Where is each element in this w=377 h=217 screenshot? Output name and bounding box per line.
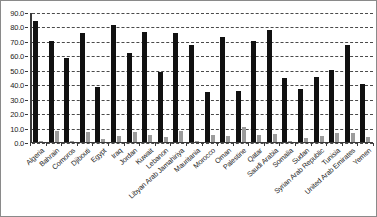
bar-group[interactable]	[266, 13, 282, 142]
y-axis-tick-label: 80.0	[10, 23, 24, 32]
y-axis-tick-mark	[25, 27, 28, 28]
bar-series-1[interactable]	[142, 32, 147, 143]
bar-series-2[interactable]	[288, 141, 292, 142]
bar-series-1[interactable]	[33, 21, 38, 142]
x-axis-tick-mark	[373, 143, 374, 146]
x-axis-tick-mark	[202, 143, 203, 146]
bar-series-1[interactable]	[205, 92, 210, 142]
bar-series-1[interactable]	[314, 77, 319, 142]
x-axis-tick-mark	[357, 143, 358, 146]
bar-group[interactable]	[141, 13, 157, 142]
y-axis-tick-label: 0.0	[14, 139, 24, 148]
y-axis-tick-mark	[25, 143, 28, 144]
bar-series-2[interactable]	[211, 135, 215, 142]
bar-series-1[interactable]	[282, 78, 287, 142]
bar-series-1[interactable]	[360, 84, 365, 142]
bar-group[interactable]	[250, 13, 266, 142]
x-axis-tick-mark	[264, 143, 265, 146]
bar-series-1[interactable]	[251, 41, 256, 142]
bar-series-2[interactable]	[148, 135, 152, 142]
bar-series-2[interactable]	[304, 138, 308, 142]
bar-series-2[interactable]	[117, 136, 121, 142]
bar-series-1[interactable]	[111, 25, 116, 142]
bar-series-1[interactable]	[220, 37, 225, 142]
bar-series-2[interactable]	[335, 133, 339, 142]
x-axis: AlgeriaBahrainComorosDjiboutiEgyptIraqJo…	[30, 143, 377, 217]
x-axis-tick-label: Egypt	[89, 146, 108, 164]
bar-series-1[interactable]	[64, 58, 69, 142]
y-axis-tick-label: 30.0	[10, 95, 24, 104]
y-axis-tick-mark	[25, 56, 28, 57]
bar-series-1[interactable]	[95, 87, 100, 142]
bar-series-2[interactable]	[273, 134, 277, 142]
bar-group[interactable]	[48, 13, 64, 142]
y-axis-tick-mark	[25, 71, 28, 72]
bar-series-2[interactable]	[257, 135, 261, 142]
x-axis-tick-mark	[186, 143, 187, 146]
x-axis-tick-mark	[295, 143, 296, 146]
bar-group[interactable]	[313, 13, 329, 142]
bar-series-1[interactable]	[329, 70, 334, 142]
x-axis-tick-mark	[342, 143, 343, 146]
y-axis-tick-mark	[25, 42, 28, 43]
bar-series-2[interactable]	[101, 139, 105, 142]
bar-series-1[interactable]	[298, 89, 303, 142]
x-axis-tick-mark	[217, 143, 218, 146]
bar-series-2[interactable]	[320, 136, 324, 142]
plot-area	[30, 13, 373, 143]
bar-group[interactable]	[157, 13, 173, 142]
y-axis-tick-mark	[25, 114, 28, 115]
bar-group[interactable]	[235, 13, 251, 142]
y-axis-tick-label: 90.0	[10, 9, 24, 18]
bar-group[interactable]	[110, 13, 126, 142]
bar-series-1[interactable]	[173, 33, 178, 142]
x-axis-tick-mark	[233, 143, 234, 146]
bar-group[interactable]	[219, 13, 235, 142]
bar-group[interactable]	[32, 13, 48, 142]
bar-series-2[interactable]	[39, 141, 43, 142]
bar-series-2[interactable]	[351, 133, 355, 142]
bar-series-2[interactable]	[55, 131, 59, 142]
bar-series-1[interactable]	[80, 33, 85, 142]
y-axis-tick-label: 60.0	[10, 52, 24, 61]
bar-group[interactable]	[126, 13, 142, 142]
bar-group[interactable]	[204, 13, 220, 142]
x-axis-tick-mark	[46, 143, 47, 146]
y-axis-tick-mark	[25, 85, 28, 86]
y-axis-tick-mark	[25, 100, 28, 101]
bar-group[interactable]	[344, 13, 360, 142]
bar-series-2[interactable]	[242, 127, 246, 142]
bar-series-1[interactable]	[158, 72, 163, 142]
x-axis-tick-mark	[311, 143, 312, 146]
bar-series-1[interactable]	[189, 45, 194, 142]
bar-group[interactable]	[297, 13, 313, 142]
bar-series-2[interactable]	[70, 141, 74, 142]
bar-group[interactable]	[328, 13, 344, 142]
bar-group[interactable]	[172, 13, 188, 142]
bar-series-1[interactable]	[127, 53, 132, 142]
x-axis-tick-mark	[30, 143, 31, 146]
bar-series-1[interactable]	[236, 91, 241, 142]
bar-series-1[interactable]	[345, 45, 350, 142]
bar-group[interactable]	[281, 13, 297, 142]
x-axis-tick-mark	[326, 143, 327, 146]
bar-series-2[interactable]	[164, 137, 168, 142]
bar-series-2[interactable]	[179, 131, 183, 142]
bar-group[interactable]	[63, 13, 79, 142]
bar-series-2[interactable]	[133, 132, 137, 142]
bar-series-1[interactable]	[49, 41, 54, 142]
bar-group[interactable]	[79, 13, 95, 142]
bar-group[interactable]	[188, 13, 204, 142]
bar-series-1[interactable]	[267, 30, 272, 142]
bar-group[interactable]	[94, 13, 110, 142]
y-axis-tick-label: 70.0	[10, 37, 24, 46]
y-axis-tick-label: 20.0	[10, 110, 24, 119]
bar-group[interactable]	[359, 13, 375, 142]
x-axis-tick-mark	[61, 143, 62, 146]
bar-series-2[interactable]	[226, 136, 230, 142]
y-axis-tick-label: 50.0	[10, 66, 24, 75]
bar-series-2[interactable]	[366, 137, 370, 142]
bar-series-2[interactable]	[86, 132, 90, 142]
bar-series-2[interactable]	[195, 141, 199, 142]
y-axis-tick-mark	[25, 13, 28, 14]
